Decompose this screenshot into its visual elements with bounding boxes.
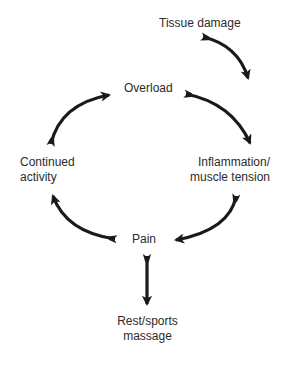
node-continued-activity: Continued activity (20, 155, 75, 185)
node-label: Pain (132, 232, 156, 247)
node-label-line1: Continued (20, 155, 75, 170)
node-pain: Pain (132, 232, 156, 247)
node-overload: Overload (124, 81, 173, 96)
node-label-line2: activity (20, 170, 75, 185)
node-label-line1: Inflammation/ (190, 155, 270, 170)
arrow-pain-to-continued-activity (53, 196, 115, 239)
node-tissue-damage: Tissue damage (159, 16, 241, 31)
node-inflammation: Inflammation/ muscle tension (190, 155, 270, 185)
node-rest-sports-massage: Rest/sports massage (116, 314, 179, 344)
arrow-tissue-to-inflammation (203, 37, 248, 78)
node-label-line2: muscle tension (190, 170, 270, 185)
pain-cycle-diagram: Tissue damage Overload Continued activit… (0, 0, 285, 366)
arrow-inflammation-to-pain (176, 196, 236, 240)
arrow-continued-to-overload (51, 95, 109, 144)
node-label: Tissue damage (159, 16, 241, 31)
arrow-overload-to-inflammation (186, 94, 250, 143)
node-label-line2: massage (116, 329, 179, 344)
node-label-line1: Rest/sports (116, 314, 179, 329)
node-label: Overload (124, 81, 173, 96)
